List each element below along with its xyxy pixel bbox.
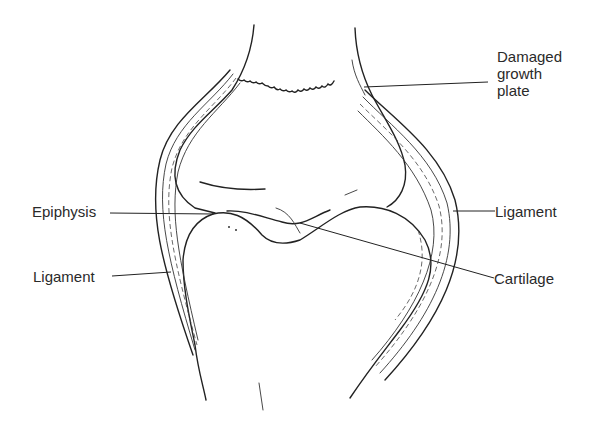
tibia [183,207,431,410]
femur [175,25,406,213]
label-ligament-left: Ligament [33,268,95,285]
label-cartilage: Cartilage [494,270,554,287]
growth-plate-line [238,79,334,92]
ligament-right-shape [358,90,459,380]
label-line: plate [497,82,562,99]
label-line: Damaged [497,48,562,65]
label-ligament-right: Ligament [495,203,557,220]
label-damaged-growth-plate: Damaged growth plate [497,48,562,99]
label-epiphysis: Epiphysis [32,203,96,220]
label-line: growth [497,65,562,82]
